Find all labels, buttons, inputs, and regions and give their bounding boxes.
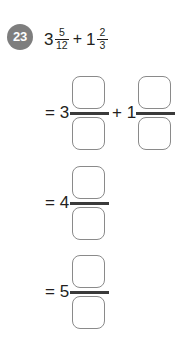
fraction-bar bbox=[70, 112, 109, 115]
term1-numerator: 5 bbox=[58, 27, 66, 39]
solution-row-1-term-2-fraction bbox=[136, 75, 175, 151]
solution-row-1-term-1: = 3 bbox=[0, 75, 110, 151]
solution-row-1-term-1-label: = 3 bbox=[45, 104, 69, 122]
term1-whole-number: 3 bbox=[44, 31, 53, 48]
solution-row-1-term-1-fraction bbox=[70, 75, 109, 151]
fraction-bar bbox=[70, 202, 109, 205]
problem-number-badge: 23 bbox=[7, 24, 33, 50]
answer-box-numerator[interactable] bbox=[72, 76, 105, 109]
answer-box-numerator[interactable] bbox=[72, 166, 105, 199]
solution-row-2-term-1-fraction bbox=[70, 165, 109, 241]
answer-box-denominator[interactable] bbox=[72, 117, 105, 150]
term2-numerator: 2 bbox=[99, 27, 107, 39]
answer-box-numerator[interactable] bbox=[72, 255, 105, 288]
answer-box-denominator[interactable] bbox=[138, 117, 171, 150]
term2-fraction: 2 3 bbox=[97, 27, 108, 51]
solution-row-2-term-1: = 4 bbox=[0, 165, 110, 241]
answer-box-denominator[interactable] bbox=[72, 296, 105, 329]
fraction-bar bbox=[136, 112, 175, 115]
term1-fraction: 5 12 bbox=[55, 27, 69, 51]
term2-denominator: 3 bbox=[99, 40, 107, 52]
answer-box-denominator[interactable] bbox=[72, 207, 105, 240]
solution-row-1-term-2: + 1 bbox=[110, 75, 191, 151]
fraction-bar bbox=[70, 291, 109, 294]
term1-denominator: 12 bbox=[55, 40, 69, 52]
problem-expression: 3 5 12 + 1 2 3 bbox=[44, 22, 108, 56]
problem-header: 23 3 5 12 + 1 2 3 bbox=[0, 22, 191, 56]
solution-row-3-term-1: = 5 bbox=[0, 254, 110, 330]
term2-whole-number: 1 bbox=[86, 31, 95, 48]
answer-box-numerator[interactable] bbox=[138, 76, 171, 109]
plus-operator: + bbox=[69, 31, 86, 47]
solution-row-3: = 5 bbox=[0, 254, 191, 330]
solution-row-2-term-1-label: = 4 bbox=[45, 194, 69, 212]
solution-row-3-term-1-label: = 5 bbox=[45, 283, 69, 301]
solution-row-1-term-2-label: + 1 bbox=[112, 104, 136, 122]
solution-row-1: = 3 + 1 bbox=[0, 75, 191, 151]
solution-row-2: = 4 bbox=[0, 165, 191, 241]
solution-row-3-term-1-fraction bbox=[70, 254, 109, 330]
